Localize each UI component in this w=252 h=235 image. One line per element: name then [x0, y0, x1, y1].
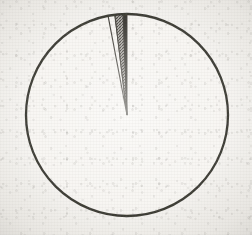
scanned-page: [0, 0, 252, 235]
pie-chart-svg: [0, 0, 252, 235]
pie-chart-figure: [0, 0, 252, 235]
